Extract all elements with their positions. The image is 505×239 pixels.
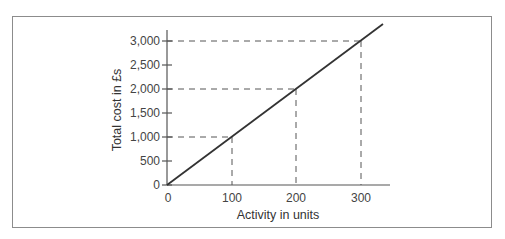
total-cost-line: [167, 24, 383, 185]
y-tick-3000: 3,000: [130, 34, 160, 48]
y-tick-2500: 2,500: [130, 58, 160, 72]
x-tick-labels: 0 100 200 300: [165, 191, 372, 205]
x-tick-0: 0: [165, 191, 172, 205]
line-chart: 0 500 1,000 1,500 2,000 2,500 3,000 0 10…: [0, 0, 505, 239]
y-tick-0: 0: [153, 178, 160, 192]
x-tick-300: 300: [351, 191, 371, 205]
y-tick-500: 500: [140, 154, 160, 168]
y-axis-title: Total cost in £s: [110, 69, 124, 152]
x-tick-100: 100: [222, 191, 242, 205]
x-axis-title: Activity in units: [237, 208, 320, 222]
y-tick-1500: 1,500: [130, 106, 160, 120]
y-tick-labels: 0 500 1,000 1,500 2,000 2,500 3,000: [130, 34, 160, 192]
y-tick-2000: 2,000: [130, 82, 160, 96]
x-tick-200: 200: [286, 191, 306, 205]
axes: [162, 30, 390, 185]
y-tick-1000: 1,000: [130, 130, 160, 144]
